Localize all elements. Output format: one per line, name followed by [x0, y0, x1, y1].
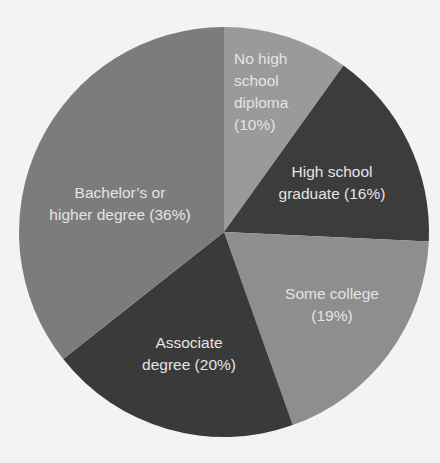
slice-label-no-high-school: No high school diploma (10%) [234, 48, 288, 136]
slice-label-associate-degree: Associate degree (20%) [142, 332, 236, 376]
pie-chart-svg [0, 0, 440, 463]
slice-label-bachelors: Bachelor’s or higher degree (36%) [49, 182, 190, 226]
slice-label-high-school-graduate: High school graduate (16%) [279, 161, 386, 205]
slice-label-some-college: Some college (19%) [285, 283, 379, 327]
pie-chart: No high school diploma (10%) High school… [0, 0, 440, 463]
